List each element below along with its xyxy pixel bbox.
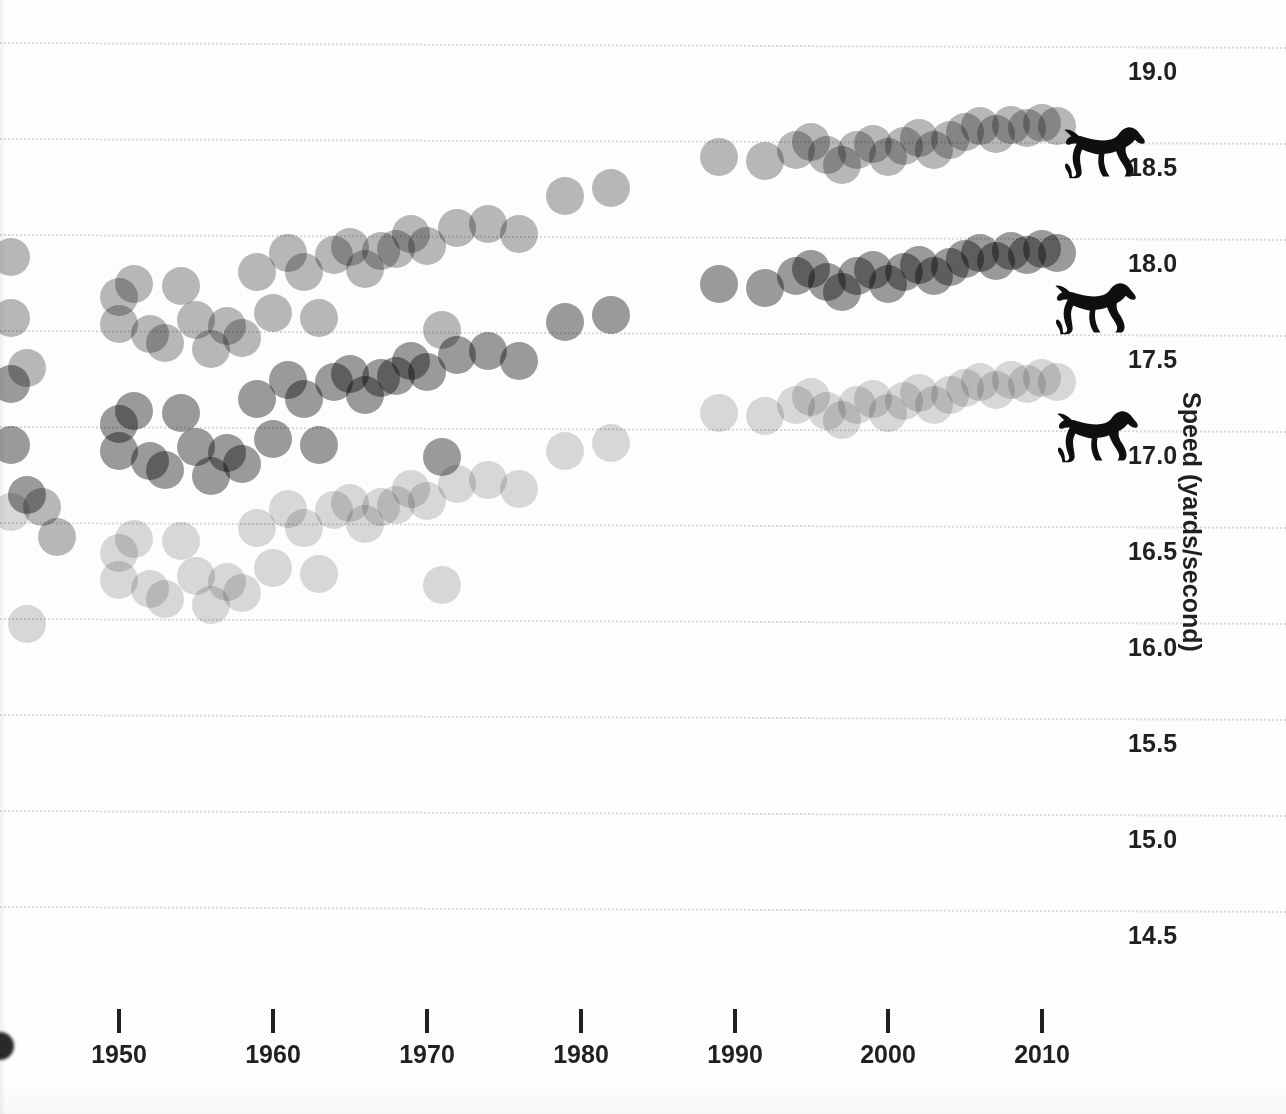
x-tick-label: 1970 <box>382 1040 472 1069</box>
x-tick-mark <box>1040 1009 1044 1033</box>
data-point <box>300 555 338 593</box>
data-point <box>115 392 153 430</box>
data-point <box>500 470 538 508</box>
y-tick-label: 14.5 <box>1128 921 1177 950</box>
data-point <box>162 267 200 305</box>
data-point <box>0 238 30 276</box>
data-point <box>162 522 200 560</box>
x-tick-label: 2010 <box>997 1040 1087 1069</box>
y-axis-title: Speed (yards/second) <box>1177 392 1206 692</box>
data-point <box>1038 234 1076 272</box>
y-tick-label: 18.5 <box>1128 153 1177 182</box>
data-point <box>700 138 738 176</box>
x-tick-mark <box>117 1009 121 1033</box>
y-tick-label: 16.5 <box>1128 537 1177 566</box>
data-point <box>700 265 738 303</box>
x-tick-label: 1950 <box>74 1040 164 1069</box>
data-point <box>254 420 292 458</box>
data-point <box>592 424 630 462</box>
data-point <box>254 294 292 332</box>
data-point <box>700 394 738 432</box>
gridline-18 <box>0 234 1286 241</box>
x-tick-label: 1960 <box>228 1040 318 1069</box>
data-point <box>0 426 30 464</box>
data-point <box>146 580 184 618</box>
data-point <box>162 394 200 432</box>
data-point <box>0 493 30 531</box>
gridline-15 <box>0 810 1286 817</box>
x-tick-mark <box>579 1009 583 1033</box>
data-point <box>423 566 461 604</box>
data-point <box>254 549 292 587</box>
x-tick-mark <box>425 1009 429 1033</box>
y-tick-label: 15.0 <box>1128 825 1177 854</box>
data-point <box>546 303 584 341</box>
data-point <box>38 518 76 556</box>
gridline-16 <box>0 618 1286 625</box>
data-point <box>500 342 538 380</box>
data-point <box>146 324 184 362</box>
data-point <box>300 426 338 464</box>
y-tick-label: 19.0 <box>1128 57 1177 86</box>
data-point <box>223 574 261 612</box>
x-tick-mark <box>886 1009 890 1033</box>
y-tick-label: 16.0 <box>1128 633 1177 662</box>
data-point <box>546 432 584 470</box>
data-point <box>546 177 584 215</box>
y-tick-label: 15.5 <box>1128 729 1177 758</box>
data-point <box>8 605 46 643</box>
data-point <box>500 215 538 253</box>
data-point <box>223 319 261 357</box>
data-point <box>146 451 184 489</box>
gridline-15.5 <box>0 714 1286 721</box>
y-tick-label: 17.0 <box>1128 441 1177 470</box>
data-point <box>1038 363 1076 401</box>
data-point <box>115 520 153 558</box>
chart-figure: 19.018.518.017.517.016.516.015.515.014.5… <box>0 0 1286 1114</box>
data-point <box>115 265 153 303</box>
x-tick-label: 1990 <box>690 1040 780 1069</box>
x-tick-mark <box>271 1009 275 1033</box>
data-point <box>592 296 630 334</box>
gridline-14.5 <box>0 906 1286 913</box>
data-point <box>223 445 261 483</box>
y-tick-label: 18.0 <box>1128 249 1177 278</box>
gridline-19 <box>0 42 1286 49</box>
x-tick-label: 2000 <box>843 1040 933 1069</box>
data-point <box>592 169 630 207</box>
y-tick-label: 17.5 <box>1128 345 1177 374</box>
plot-area <box>0 0 1286 1114</box>
x-tick-label: 1980 <box>536 1040 626 1069</box>
galloping-horse-icon <box>1053 272 1139 344</box>
x-tick-mark <box>733 1009 737 1033</box>
